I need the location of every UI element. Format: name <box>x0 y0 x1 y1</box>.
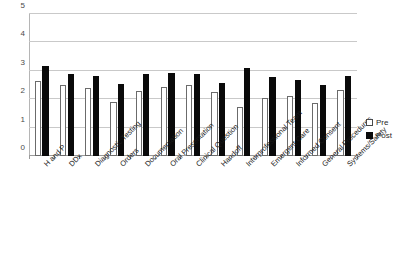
y-axis-tick-label: 2 <box>3 87 25 95</box>
bar-group <box>231 14 256 156</box>
bar-chart: 012345 H and PDDxDiagnostic TestingOrder… <box>0 0 410 257</box>
bar-group <box>79 14 104 156</box>
y-axis-tick-label: 5 <box>3 2 25 10</box>
x-axis-tick <box>29 156 30 159</box>
bar-post <box>93 76 99 156</box>
bar-pre <box>85 88 91 156</box>
bar-group <box>29 14 54 156</box>
bar-post <box>244 68 250 156</box>
filled-square-icon <box>366 132 373 139</box>
bar-group <box>54 14 79 156</box>
legend-item-post[interactable]: Post <box>366 129 410 142</box>
bar-post <box>68 74 74 156</box>
hollow-square-icon <box>366 119 373 126</box>
legend-item-pre[interactable]: Pre <box>366 116 410 129</box>
bar-post <box>143 74 149 156</box>
x-axis-category-labels: H and PDDxDiagnostic TestingOrdersDocume… <box>0 160 410 257</box>
legend-label: Pre <box>376 118 388 127</box>
y-axis-tick-label: 4 <box>3 30 25 38</box>
y-axis-tick-label: 1 <box>3 116 25 124</box>
bar-group <box>130 14 155 156</box>
legend-label: Post <box>376 131 392 140</box>
y-axis-tick-label: 3 <box>3 59 25 67</box>
bar-pre <box>35 81 41 156</box>
bar-post <box>42 66 48 156</box>
y-axis-tick-labels: 012345 <box>0 14 25 156</box>
chart-legend: PrePost <box>366 116 410 142</box>
y-axis-tick-label: 0 <box>3 144 25 152</box>
